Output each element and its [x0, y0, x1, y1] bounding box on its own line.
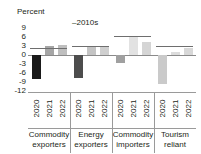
- group-name-4: Tourismreliant: [154, 130, 196, 149]
- x-tick-tourism-2020: 2020: [156, 95, 169, 127]
- x-tick-tourism-2022: 2022: [182, 95, 195, 127]
- group-name-line: Tourism: [154, 130, 196, 140]
- bar-group-2: [70, 28, 112, 91]
- y-tick-3: 3: [4, 42, 26, 50]
- x-tick-label: 2021: [45, 93, 54, 124]
- bar-tourism-2022: [184, 48, 193, 55]
- x-tick-commodity-2022: 2022: [56, 95, 69, 127]
- bar-tourism-2020: [158, 55, 167, 84]
- group-name-line: exporters: [28, 140, 70, 150]
- x-tick-commodity-2021: 2021: [43, 95, 56, 127]
- x-tick-label: 2020: [158, 93, 167, 124]
- bar-group-1: [28, 28, 70, 91]
- y-tick-0: 0: [4, 51, 26, 59]
- x-axis-label-table: 202020212022Commodityexporters2020202120…: [28, 92, 196, 153]
- x-tick-label: 2022: [142, 93, 151, 124]
- x-tick-label: 2020: [74, 93, 83, 124]
- reference-line-2010s-group-3: [114, 36, 151, 37]
- bar-energy-2021: [87, 47, 96, 55]
- y-axis-title: Percent: [17, 7, 45, 16]
- label-table-divider: [28, 128, 196, 129]
- group-name-line: exporters: [70, 140, 112, 150]
- x-tick-label: 2021: [129, 93, 138, 124]
- bar-commodity-2022: [58, 45, 67, 55]
- x-tick-label: 2022: [58, 93, 67, 124]
- bar-commodity-2020: [116, 55, 125, 63]
- plot-area: [28, 28, 196, 91]
- y-tick-neg6: -6: [4, 69, 26, 77]
- chart-container: Percent –2010s 9630-3-6-9-12 20202021202…: [0, 0, 201, 154]
- y-tick-9: 9: [4, 24, 26, 32]
- x-tick-energy-2022: 2022: [98, 95, 111, 127]
- y-tick-6: 6: [4, 33, 26, 41]
- bar-commodity-2022: [142, 42, 151, 55]
- reference-line-2010s-group-1: [30, 48, 67, 49]
- y-axis-tick-labels: 9630-3-6-9-12: [0, 24, 26, 92]
- bar-energy-2020: [74, 55, 83, 78]
- bar-group-3: [112, 28, 154, 91]
- bar-commodity-2021: [129, 36, 138, 55]
- legend-2010s-label: –2010s: [72, 18, 98, 27]
- x-tick-commodity-2022: 2022: [140, 95, 153, 127]
- x-tick-energy-2020: 2020: [72, 95, 85, 127]
- group-name-2: Energyexporters: [70, 130, 112, 149]
- y-tick-neg12: -12: [4, 87, 26, 95]
- group-name-line: Commodity: [112, 130, 154, 140]
- x-tick-commodity-2020: 2020: [114, 95, 127, 127]
- x-tick-label: 2022: [184, 93, 193, 124]
- group-name-line: importers: [112, 140, 154, 150]
- bar-energy-2022: [100, 46, 109, 55]
- reference-line-2010s-group-4: [156, 46, 193, 47]
- y-tick-neg9: -9: [4, 78, 26, 86]
- x-tick-commodity-2021: 2021: [127, 95, 140, 127]
- x-tick-energy-2021: 2021: [85, 95, 98, 127]
- reference-line-2010s-group-2: [72, 46, 109, 47]
- bar-commodity-2020: [32, 55, 41, 79]
- x-tick-commodity-2020: 2020: [30, 95, 43, 127]
- x-tick-label: 2022: [100, 93, 109, 124]
- group-name-line: Energy: [70, 130, 112, 140]
- x-tick-label: 2020: [116, 93, 125, 124]
- group-name-3: Commodityimporters: [112, 130, 154, 149]
- x-tick-label: 2021: [171, 93, 180, 124]
- y-tick-neg3: -3: [4, 60, 26, 68]
- group-name-line: reliant: [154, 140, 196, 150]
- group-name-line: Commodity: [28, 130, 70, 140]
- x-tick-tourism-2021: 2021: [169, 95, 182, 127]
- bar-group-4: [154, 28, 196, 91]
- cropped-figure-sliver: [0, 0, 201, 6]
- group-name-1: Commodityexporters: [28, 130, 70, 149]
- x-tick-label: 2021: [87, 93, 96, 124]
- bar-tourism-2021: [171, 52, 180, 55]
- x-tick-label: 2020: [32, 93, 41, 124]
